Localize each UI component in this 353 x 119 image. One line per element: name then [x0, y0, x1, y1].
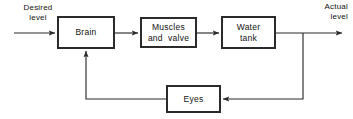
block-eyes-text: Eyes: [184, 94, 204, 105]
input-label-line-2: level: [29, 13, 46, 22]
block-diagram: Desiredlevel Actuallevel Brain Musclesan…: [0, 0, 353, 119]
input-label-line-1: Desired: [24, 3, 53, 12]
block-muscles-label: Musclesand valve: [141, 18, 196, 47]
output-label-line-2: level: [331, 12, 348, 21]
block-tank-text-line-2: tank: [240, 33, 257, 44]
block-brain-text: Brain: [75, 27, 96, 38]
block-brain-label: Brain: [58, 17, 114, 48]
block-tank-text-line-1: Water: [237, 22, 261, 33]
block-muscles-text-line-2: and valve: [148, 33, 189, 44]
block-tank-label: Watertank: [222, 17, 275, 48]
output-label-line-1: Actual: [325, 2, 348, 11]
block-eyes-label: Eyes: [167, 86, 220, 112]
output-label: Actuallevel: [296, 2, 348, 21]
block-muscles-text-line-1: Muscles: [152, 22, 185, 33]
connector-eyes-to-brain: [86, 51, 167, 99]
input-label: Desiredlevel: [14, 3, 62, 22]
